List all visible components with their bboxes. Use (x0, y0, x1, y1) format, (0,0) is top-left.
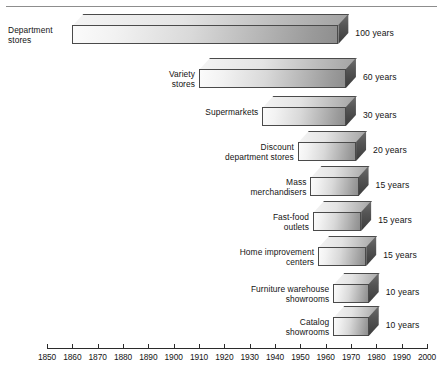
axis-tick (376, 344, 377, 349)
axis-tick (47, 344, 48, 349)
bar-front-face (318, 247, 366, 266)
axis-tick (351, 344, 352, 349)
bar-value-label: 15 years (376, 180, 410, 190)
axis-tick-label: 1990 (387, 352, 417, 362)
axis-tick (72, 344, 73, 349)
bar-front-face (298, 142, 356, 161)
bar-value-label: 10 years (386, 320, 420, 330)
axis-tick (250, 344, 251, 349)
bar-value-label: 30 years (363, 110, 397, 120)
axis-tick-label: 1870 (83, 352, 113, 362)
axis-tick (326, 344, 327, 349)
axis-tick-label: 1850 (32, 352, 62, 362)
bar-3d (333, 273, 379, 303)
axis-tick-label: 1980 (361, 352, 391, 362)
axis-tick (275, 344, 276, 349)
bar-3d (298, 131, 367, 161)
bar-value-label: 60 years (363, 72, 397, 82)
axis-tick (123, 344, 124, 349)
axis-tick-label: 1970 (336, 352, 366, 362)
axis-tick-label: 2000 (412, 352, 442, 362)
bar-front-face (333, 317, 368, 336)
bar-value-label: 100 years (355, 28, 394, 38)
bar-value-label: 20 years (373, 145, 407, 155)
axis-tick-label: 1920 (209, 352, 239, 362)
bar-category-label: Catalog showrooms (179, 318, 329, 337)
axis-tick-label: 1910 (184, 352, 214, 362)
axis-tick (402, 344, 403, 349)
bar-front-face (262, 107, 346, 126)
bar-front-face (199, 69, 346, 88)
axis-tick (300, 344, 301, 349)
bar-value-label: 10 years (386, 287, 420, 297)
retail-lifecycle-chart: Department stores100 yearsVariety stores… (0, 0, 443, 379)
bar-category-label: Variety stores (45, 70, 195, 89)
bar-3d (318, 236, 377, 266)
axis-tick (224, 344, 225, 349)
axis-tick (174, 344, 175, 349)
bar-category-label: Furniture warehouse showrooms (179, 285, 329, 304)
bar-category-label: Home improvement centers (164, 248, 314, 267)
axis-tick-label: 1860 (57, 352, 87, 362)
axis-tick-label: 1960 (311, 352, 341, 362)
axis-tick (199, 344, 200, 349)
bar-3d (199, 58, 357, 88)
bar-value-label: 15 years (378, 215, 412, 225)
bar-3d (333, 306, 379, 336)
axis-tick-label: 1930 (235, 352, 265, 362)
axis-tick (98, 344, 99, 349)
bar-front-face (310, 177, 358, 196)
bar-3d (262, 96, 357, 126)
bar-category-label: Mass merchandisers (156, 178, 306, 197)
axis-tick-label: 1890 (133, 352, 163, 362)
axis-baseline (47, 348, 427, 349)
bar-value-label: 15 years (383, 250, 417, 260)
axis-tick-label: 1950 (285, 352, 315, 362)
bar-category-label: Supermarkets (108, 108, 258, 118)
bar-3d (310, 166, 369, 196)
axis-tick-label: 1900 (159, 352, 189, 362)
axis-tick-label: 1940 (260, 352, 290, 362)
axis-tick (148, 344, 149, 349)
axis-tick (427, 344, 428, 349)
bar-front-face (313, 212, 361, 231)
bar-category-label: Fast-food outlets (159, 213, 309, 232)
axis-tick-label: 1880 (108, 352, 138, 362)
bar-front-face (333, 284, 368, 303)
header-rule (6, 6, 437, 7)
bar-3d (313, 201, 372, 231)
bar-category-label: Department stores (8, 26, 158, 45)
bar-category-label: Discount department stores (144, 143, 294, 162)
